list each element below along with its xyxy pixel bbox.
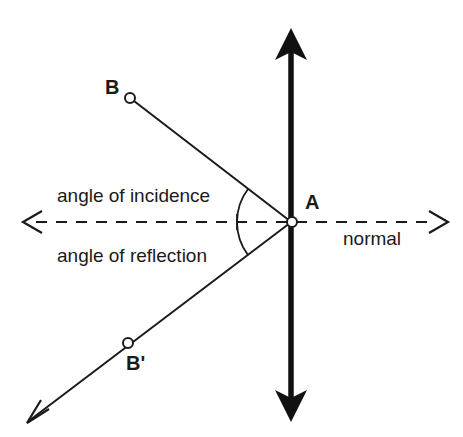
angle-of-incidence-label: angle of incidence [57, 185, 210, 206]
angle-of-reflection-arc [237, 222, 248, 255]
point-b-marker[interactable] [125, 93, 135, 103]
reflection-diagram-canvas: B B' A angle of incidence angle of refle… [0, 0, 463, 437]
reflection-diagram: B B' A angle of incidence angle of refle… [0, 0, 463, 437]
angle-of-reflection-label: angle of reflection [57, 245, 207, 266]
point-b-prime-marker[interactable] [123, 338, 133, 348]
reflected-ray-arrowhead-icon [27, 400, 49, 423]
normal-label: normal [343, 228, 401, 249]
angle-of-incidence-arc [237, 189, 248, 222]
point-b-prime-label: B' [126, 352, 145, 374]
point-b-label: B [105, 76, 119, 98]
point-a-label: A [305, 191, 319, 213]
point-a-marker[interactable] [287, 217, 297, 227]
normal-right-arrowhead-icon [429, 211, 448, 233]
